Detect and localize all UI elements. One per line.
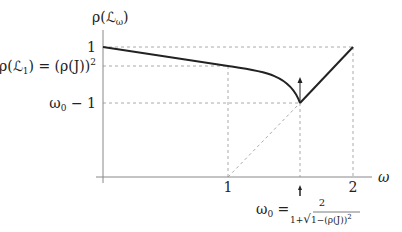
omega0-marker-head-icon [298, 185, 302, 190]
formula-denominator: 1+√1−(ρ(J))2 [290, 212, 352, 226]
formula-lhs: ω0 = [256, 201, 289, 219]
sor-spectral-radius-diagram: ρ(ℒω) 1 ρ(ℒ1) = (ρ(J))2 ω0 − 1 1 2 ω ω0 … [0, 0, 402, 232]
y-tick-1: 1 [87, 39, 96, 55]
y-tick-omega0-minus-1: ω0 − 1 [49, 95, 96, 113]
guide-diagonal [228, 103, 300, 177]
spectral-radius-curve-right [300, 47, 353, 103]
x-tick-1: 1 [224, 179, 233, 195]
spectral-radius-curve-left [103, 47, 300, 103]
y-tick-rho-l1: ρ(ℒ1) = (ρ(J))2 [0, 57, 96, 76]
x-tick-2: 2 [349, 179, 358, 195]
arrow-head-icon [298, 77, 303, 83]
formula-numerator: 2 [319, 197, 325, 208]
y-axis-label: ρ(ℒω) [92, 9, 129, 27]
x-axis-label: ω [378, 169, 390, 185]
